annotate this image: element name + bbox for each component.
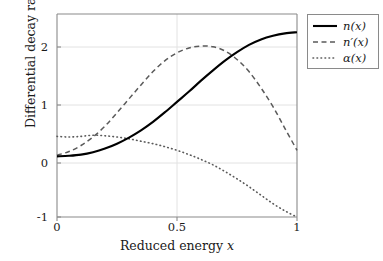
xtick-label-0: 0 xyxy=(37,220,77,234)
legend-label-n-prime: n′(x) xyxy=(343,35,368,49)
ytick-label-0: 0 xyxy=(18,156,48,170)
legend-sample-dotted xyxy=(312,53,338,63)
xtick-label-0-5: 0.5 xyxy=(157,220,197,234)
legend-label-n: n(x) xyxy=(343,19,366,33)
legend-sample-solid xyxy=(312,21,338,31)
legend: n(x) n′(x) α(x) xyxy=(307,14,379,69)
legend-label-alpha: α(x) xyxy=(343,51,366,65)
x-axis-label-text: Reduced energy xyxy=(120,238,227,253)
legend-sample-dashed xyxy=(312,37,338,47)
y-axis-label: Differential decay rate xyxy=(23,0,38,145)
x-axis-label-variable: x xyxy=(227,238,234,253)
xtick-label-1: 1 xyxy=(277,220,317,234)
gridlines xyxy=(57,14,297,217)
legend-item-n: n(x) xyxy=(312,18,366,34)
legend-item-n-prime: n′(x) xyxy=(312,34,368,50)
legend-item-alpha: α(x) xyxy=(312,50,366,66)
x-axis-label: Reduced energy x xyxy=(57,238,297,253)
chart-figure: 2 1 0 -1 0 0.5 1 Differential decay rate… xyxy=(0,0,383,261)
